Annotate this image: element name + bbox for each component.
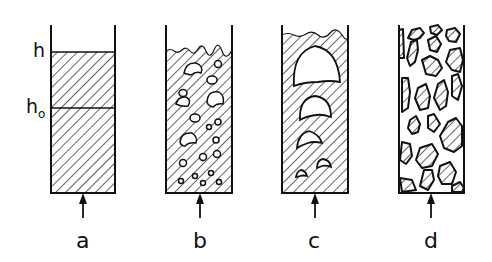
packed-bed-fill bbox=[51, 52, 115, 193]
panel-label-c: c bbox=[308, 228, 320, 253]
fluidization-diagram: h ho a bbox=[0, 0, 492, 262]
arrowhead-icon bbox=[427, 193, 435, 204]
panel-a: h ho a bbox=[26, 25, 115, 253]
arrowhead-icon bbox=[196, 193, 204, 204]
panel-d: d bbox=[399, 25, 464, 253]
h0-label: ho bbox=[26, 95, 45, 121]
panel-b: b bbox=[166, 25, 232, 253]
panel-label-b: b bbox=[193, 228, 207, 253]
h-label: h bbox=[33, 39, 45, 61]
panel-c: c bbox=[282, 25, 348, 253]
panel-label-d: d bbox=[424, 228, 438, 253]
arrowhead-icon bbox=[79, 193, 87, 204]
arrowhead-icon bbox=[311, 193, 319, 204]
particle-clusters bbox=[399, 25, 464, 192]
panel-label-a: a bbox=[76, 228, 89, 253]
